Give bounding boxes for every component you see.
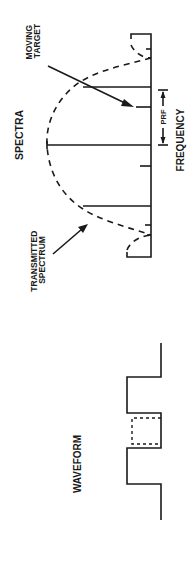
spectra-title: SPECTRA [13, 110, 25, 161]
radar-spectra-waveform-diagram: PRF SPECTRA MOVING TARGET TRANSMITTED SP… [0, 0, 194, 565]
prf-arrow-down-icon [161, 137, 166, 144]
waveform-panel: WAVEFORM [72, 343, 161, 520]
spectrum-envelope-sidelobe-bottom [127, 235, 151, 250]
spectrum-envelope-main [47, 58, 151, 235]
spectrum-envelope-sidelobe-top [131, 45, 151, 58]
waveform-title: WAVEFORM [72, 435, 83, 493]
transmitted-spectrum-arrow [53, 224, 88, 254]
prf-dimension: PRF [158, 90, 168, 145]
transmitted-spectrum-label: TRANSMITTED SPECTRUM [29, 228, 47, 291]
moving-target-label: MOVING TARGET [24, 23, 42, 60]
arrowhead-icon [121, 99, 134, 107]
prf-arrow-up-icon [161, 91, 166, 98]
prf-label: PRF [159, 109, 168, 124]
spectra-panel: PRF SPECTRA MOVING TARGET TRANSMITTED SP… [13, 23, 186, 292]
frequency-axis-label: FREQUENCY [175, 108, 186, 171]
missing-pulse-dashed [132, 418, 161, 444]
